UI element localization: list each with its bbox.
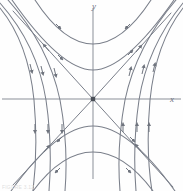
arrow-sep-dn-left [44, 146, 49, 152]
trajectory-group [0, 0, 183, 191]
phase-portrait-figure: y x FIGURE 3.12 [0, 0, 183, 191]
arrow-sep-dn-right [136, 145, 141, 151]
separatrix-up-right-line [93, 13, 171, 99]
trajectory-right-2 [135, 3, 183, 191]
arrow-bot-right [126, 168, 130, 172]
arrow-bot-left [56, 168, 60, 172]
arrow-right-2-upper [142, 66, 144, 74]
figure-caption: FIGURE 3.12 [2, 184, 142, 190]
arrow-right-3-upper [129, 68, 131, 76]
axes-group [2, 8, 181, 179]
arrow-left-2-upper [41, 66, 43, 74]
separatrix-down-right-line [93, 99, 173, 187]
arrow-sep-up-left [44, 45, 49, 51]
arrow-sep-up-right [136, 46, 141, 52]
arrow-left-1-upper [30, 64, 32, 72]
equilibrium-point-marker [91, 97, 95, 101]
x-axis-label: x [170, 95, 174, 104]
arrow-left-3-upper [54, 68, 56, 76]
y-axis-label: y [92, 2, 96, 11]
trajectory-left-2 [0, 3, 50, 191]
phase-portrait-canvas [0, 0, 183, 191]
trajectory-left-3 [8, 0, 66, 191]
